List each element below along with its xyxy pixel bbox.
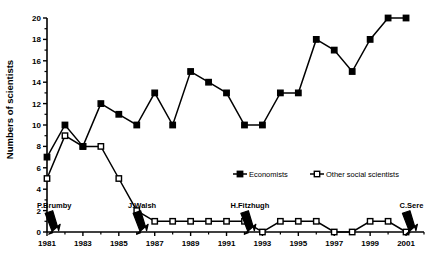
- x-tick-label: 1983: [74, 239, 92, 248]
- data-point-marker: [170, 219, 175, 224]
- y-tick-label: 4: [37, 185, 42, 194]
- annotation-label: H.Fitzhugh: [230, 201, 269, 210]
- y-tick-label: 14: [32, 78, 41, 87]
- data-point-marker: [314, 219, 319, 224]
- data-point-marker: [367, 37, 372, 42]
- data-point-marker: [188, 219, 193, 224]
- data-point-marker: [116, 112, 121, 117]
- x-axis-tick-labels: 1981198319851987198919911993199519971999…: [38, 239, 415, 248]
- y-tick-label: 0: [37, 228, 42, 237]
- y-tick-label: 8: [37, 142, 42, 151]
- annotation-group: P.BrumbyJ.WalshH.FitzhughC.Sere: [37, 201, 423, 234]
- annotation-label: C.Sere: [400, 201, 424, 210]
- series-line: [47, 136, 406, 232]
- x-tick-label: 1995: [289, 239, 307, 248]
- legend-marker: [314, 171, 319, 176]
- data-point-marker: [224, 219, 229, 224]
- y-axis-ticks: [43, 18, 47, 232]
- series-other-social-scientists: [44, 133, 408, 235]
- data-point-marker: [314, 37, 319, 42]
- data-point-marker: [44, 154, 49, 159]
- data-point-marker: [98, 144, 103, 149]
- legend-label: Other social scientists: [326, 170, 399, 179]
- x-tick-label: 1999: [361, 239, 379, 248]
- data-point-marker: [152, 219, 157, 224]
- data-point-marker: [349, 229, 354, 234]
- series-economists: [44, 15, 408, 159]
- annotation-label: J.Walsh: [128, 201, 156, 210]
- chart-svg: 02468101214161820 1981198319851987198919…: [0, 0, 432, 268]
- data-point-marker: [224, 90, 229, 95]
- data-point-marker: [278, 90, 283, 95]
- y-tick-label: 20: [32, 14, 41, 23]
- data-point-marker: [385, 219, 390, 224]
- chart-container: Numbers of scientists 02468101214161820 …: [0, 0, 432, 268]
- annotation-label: P.Brumby: [37, 201, 72, 210]
- data-point-marker: [260, 122, 265, 127]
- data-point-marker: [349, 69, 354, 74]
- data-point-marker: [206, 80, 211, 85]
- data-point-marker: [278, 219, 283, 224]
- annotation-arrow-icon: [133, 211, 148, 235]
- data-point-marker: [296, 219, 301, 224]
- x-tick-label: 1991: [218, 239, 236, 248]
- x-tick-label: 1993: [254, 239, 272, 248]
- x-tick-label: 1989: [182, 239, 200, 248]
- y-tick-label: 6: [37, 164, 42, 173]
- x-tick-label: 1997: [325, 239, 343, 248]
- data-point-marker: [116, 176, 121, 181]
- data-point-marker: [332, 229, 337, 234]
- data-point-marker: [403, 15, 408, 20]
- series-line: [47, 18, 406, 157]
- data-point-marker: [296, 90, 301, 95]
- y-tick-label: 12: [32, 100, 41, 109]
- data-point-marker: [62, 122, 67, 127]
- x-tick-label: 2001: [397, 239, 415, 248]
- y-tick-label: 18: [32, 35, 41, 44]
- legend-marker: [237, 171, 242, 176]
- x-tick-label: 1981: [38, 239, 56, 248]
- x-tick-label: 1985: [110, 239, 128, 248]
- data-point-marker: [206, 219, 211, 224]
- data-point-marker: [62, 133, 67, 138]
- legend-label: Economists: [249, 170, 288, 179]
- data-point-marker: [367, 219, 372, 224]
- data-point-marker: [152, 90, 157, 95]
- y-tick-label: 10: [32, 121, 41, 130]
- data-point-marker: [98, 101, 103, 106]
- chart-legend: EconomistsOther social scientists: [233, 170, 399, 179]
- data-point-marker: [332, 47, 337, 52]
- data-point-marker: [260, 229, 265, 234]
- data-point-marker: [44, 176, 49, 181]
- x-tick-label: 1987: [146, 239, 164, 248]
- data-point-marker: [188, 69, 193, 74]
- data-point-marker: [134, 122, 139, 127]
- data-point-marker: [80, 144, 85, 149]
- data-point-marker: [170, 122, 175, 127]
- y-tick-label: 16: [32, 57, 41, 66]
- data-point-marker: [242, 122, 247, 127]
- data-point-marker: [385, 15, 390, 20]
